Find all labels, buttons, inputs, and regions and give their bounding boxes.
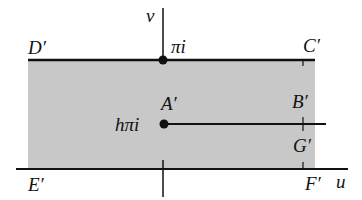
shaded-strip-region xyxy=(28,60,315,169)
u-axis-label: u xyxy=(336,171,346,192)
pi-i-point xyxy=(159,56,168,65)
label-pi-i: πi xyxy=(171,36,186,57)
label-a-prime: A′ xyxy=(159,93,178,114)
label-e-prime: E′ xyxy=(27,174,45,195)
label-b-prime: B′ xyxy=(292,91,309,112)
strip-diagram: v u D′ πi C′ A′ hπi B′ G′ E′ F′ xyxy=(0,0,362,200)
v-axis-label: v xyxy=(146,5,155,26)
label-d-prime: D′ xyxy=(27,37,47,58)
label-g-prime: G′ xyxy=(293,135,312,156)
label-h-pi-i: hπi xyxy=(115,114,139,135)
a-prime-point xyxy=(160,120,169,129)
label-f-prime: F′ xyxy=(304,173,322,194)
label-c-prime: C′ xyxy=(303,35,321,56)
